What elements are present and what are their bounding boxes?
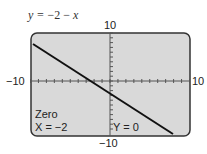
x-readout: X = −2 (35, 121, 67, 133)
y-readout: Y = 0 (113, 121, 139, 133)
y-ticks (110, 33, 113, 129)
trace-mode: Zero (35, 108, 58, 120)
xmin-label: −10 (6, 75, 25, 87)
ymin-label: −10 (99, 137, 118, 149)
ymax-label: 10 (104, 19, 116, 31)
xmax-label: 10 (192, 75, 204, 87)
